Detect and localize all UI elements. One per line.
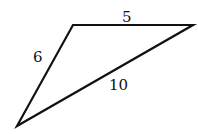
triangle-diagram: 5 6 10 <box>0 0 198 134</box>
triangle <box>17 25 193 126</box>
side-label-top: 5 <box>122 8 132 26</box>
side-label-left: 6 <box>33 48 43 66</box>
side-label-hypotenuse: 10 <box>109 76 128 94</box>
